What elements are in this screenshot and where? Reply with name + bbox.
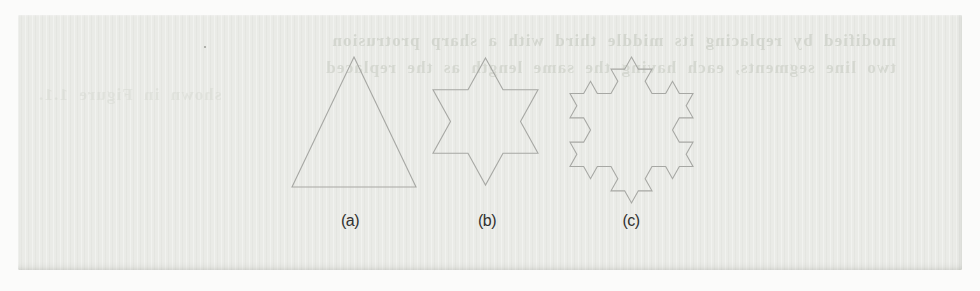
scanned-page: modified by replacing its middle third w… [0, 0, 980, 291]
shape-label-b: (b) [478, 212, 496, 230]
scan-speck [204, 46, 206, 48]
koch-outline-a [292, 57, 416, 187]
koch-shape-c-snowflake [568, 55, 695, 205]
koch-outline-c [570, 57, 693, 203]
shape-label-c: (c) [622, 212, 639, 230]
koch-shape-a-triangle [290, 55, 418, 189]
shape-label-a: (a) [341, 212, 359, 230]
koch-outline-b [433, 58, 538, 185]
koch-shape-b-star [431, 56, 540, 187]
show-through-text-line-1: modified by replacing its middle third w… [38, 31, 896, 53]
